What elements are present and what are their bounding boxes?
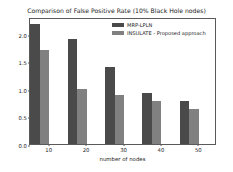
bar bbox=[68, 39, 78, 144]
x-axis-tick-mark bbox=[86, 144, 87, 146]
bar bbox=[30, 24, 40, 144]
bar bbox=[152, 101, 162, 144]
legend-swatch-icon bbox=[112, 31, 124, 35]
x-axis-tick-label: 10 bbox=[45, 147, 52, 153]
chart-title: Comparison of False Positive Rate (10% B… bbox=[0, 7, 233, 14]
x-axis-tick-mark bbox=[123, 144, 124, 146]
x-axis-tick-mark bbox=[48, 144, 49, 146]
legend-item: INSULATE - Proposed approach bbox=[112, 30, 206, 36]
x-axis-tick-label: 40 bbox=[158, 147, 165, 153]
bar bbox=[77, 89, 87, 144]
bar bbox=[189, 109, 199, 144]
bar bbox=[40, 50, 50, 144]
legend-label: MRP-LPLN bbox=[127, 22, 152, 28]
legend: MRP-LPLNINSULATE - Proposed approach bbox=[112, 22, 206, 36]
x-axis-tick-mark bbox=[198, 144, 199, 146]
legend-item: MRP-LPLN bbox=[112, 22, 206, 28]
figure-canvas: Comparison of False Positive Rate (10% B… bbox=[0, 0, 233, 172]
bars-layer bbox=[30, 19, 215, 144]
legend-label: INSULATE - Proposed approach bbox=[127, 30, 206, 36]
x-axis-tick-mark bbox=[160, 144, 161, 146]
x-axis-tick-label: 20 bbox=[83, 147, 90, 153]
x-axis-label: number of nodes bbox=[30, 156, 215, 162]
legend-swatch-icon bbox=[112, 23, 124, 27]
x-axis-tick-label: 30 bbox=[120, 147, 127, 153]
bar bbox=[105, 67, 115, 144]
x-axis-tick-label: 50 bbox=[195, 147, 202, 153]
bar bbox=[180, 101, 190, 144]
y-axis-tick-mark bbox=[28, 146, 30, 147]
bar bbox=[142, 93, 152, 144]
plot-area: False Positive Rate number of nodes 0.00… bbox=[29, 18, 216, 145]
bar bbox=[115, 95, 125, 144]
